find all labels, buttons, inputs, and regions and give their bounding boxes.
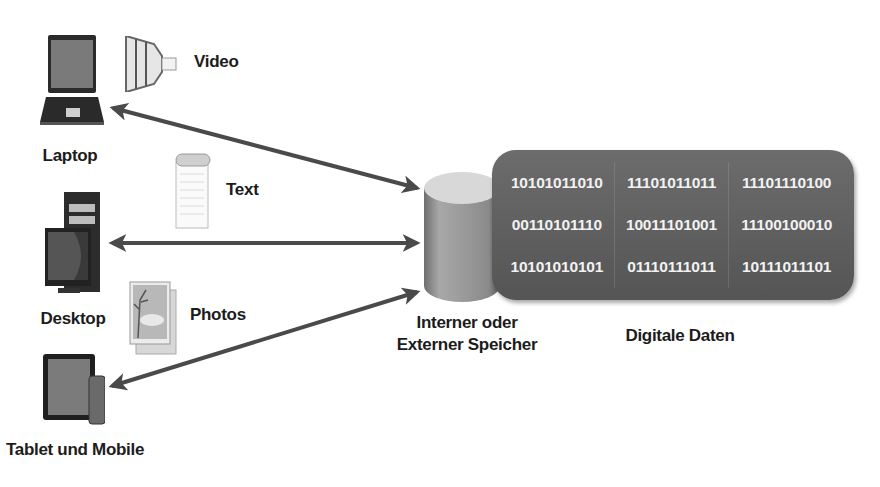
binary-grid: 10101011010 11101011011 11101110100 0011… — [500, 162, 844, 288]
desktop-label: Desktop — [28, 309, 118, 329]
binary-cell: 11101110100 — [729, 162, 844, 204]
film-strip-icon — [124, 36, 178, 92]
text-label: Text — [226, 180, 259, 200]
binary-cell: 11101011011 — [615, 162, 730, 204]
laptop-icon — [40, 34, 106, 128]
photo-icon — [128, 280, 178, 356]
binary-cell: 10101010101 — [500, 246, 615, 288]
notepad-icon — [174, 152, 214, 232]
tablet-mobile-icon — [43, 354, 105, 426]
laptop-label: Laptop — [30, 146, 110, 166]
binary-cell: 10101011010 — [500, 162, 615, 204]
binary-cell: 00110101110 — [500, 204, 615, 246]
binary-cell: 10111011101 — [729, 246, 844, 288]
binary-cell: 01110111011 — [615, 246, 730, 288]
digital-data-box: 10101011010 11101011011 11101110100 0011… — [492, 150, 854, 300]
binary-cell: 10011101001 — [615, 204, 730, 246]
photos-label: Photos — [190, 305, 246, 325]
storage-label-line1: Interner oder — [392, 312, 542, 334]
video-label: Video — [194, 52, 238, 72]
binary-cell: 11100100010 — [729, 204, 844, 246]
desktop-icon — [44, 192, 104, 296]
storage-label-line2: Externer Speicher — [392, 334, 542, 356]
storage-label: Interner oder Externer Speicher — [392, 312, 542, 356]
digital-data-label: Digitale Daten — [600, 326, 760, 346]
arrow-laptop-storage — [113, 108, 417, 188]
tablet-mobile-label: Tablet und Mobile — [0, 440, 150, 460]
